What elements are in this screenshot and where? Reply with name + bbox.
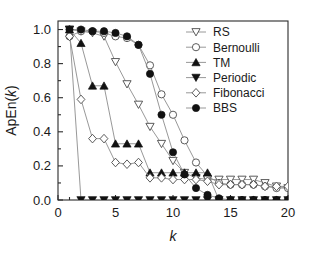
y-tick-label: 0.4 bbox=[33, 124, 51, 139]
legend-marker-bbs bbox=[192, 104, 199, 111]
y-tick-label: 0.2 bbox=[33, 158, 51, 173]
x-tick-label: 5 bbox=[112, 205, 119, 220]
data-point-bernoulli bbox=[158, 91, 165, 98]
y-tick-label: 0.6 bbox=[33, 90, 51, 105]
x-tick-label: 15 bbox=[223, 205, 237, 220]
y-axis-title: ApEn(k) bbox=[3, 85, 19, 136]
y-tick-label: 0.8 bbox=[33, 56, 51, 71]
y-axis-title-text: ApEn(k) bbox=[3, 85, 19, 136]
data-point-bbs bbox=[204, 191, 211, 198]
data-point-bbs bbox=[146, 70, 153, 77]
data-point-bernoulli bbox=[169, 111, 176, 118]
legend-label-bernoulli: Bernoulli bbox=[213, 41, 260, 55]
approximate-entropy-line-chart: 051015200.00.20.40.60.81.0 RSBernoulliTM… bbox=[0, 0, 314, 258]
data-point-bbs bbox=[181, 171, 188, 178]
y-tick-label: 0.0 bbox=[33, 193, 51, 208]
data-point-bbs bbox=[89, 28, 96, 35]
data-point-bbs bbox=[169, 149, 176, 156]
data-point-bernoulli bbox=[181, 137, 188, 144]
data-point-bbs bbox=[135, 41, 142, 48]
legend-label-tm: TM bbox=[213, 56, 230, 70]
legend-label-bbs: BBS bbox=[213, 101, 237, 115]
data-point-bbs bbox=[66, 26, 73, 33]
x-axis-title: k bbox=[170, 228, 178, 244]
x-tick-label: 20 bbox=[281, 205, 295, 220]
x-tick-label: 10 bbox=[166, 205, 180, 220]
x-tick-label: 0 bbox=[54, 205, 61, 220]
data-point-bbs bbox=[100, 28, 107, 35]
data-point-bbs bbox=[77, 26, 84, 33]
data-point-bbs bbox=[192, 184, 199, 191]
chart-figure: 051015200.00.20.40.60.81.0 RSBernoulliTM… bbox=[0, 0, 314, 258]
legend-label-periodic: Periodic bbox=[213, 71, 256, 85]
legend-label-fibonacci: Fibonacci bbox=[213, 86, 264, 100]
legend-marker-bernoulli bbox=[192, 44, 199, 51]
data-point-bernoulli bbox=[192, 159, 199, 166]
data-point-bbs bbox=[123, 33, 130, 40]
data-point-bbs bbox=[158, 111, 165, 118]
legend-label-rs: RS bbox=[213, 25, 230, 39]
y-tick-label: 1.0 bbox=[33, 22, 51, 37]
data-point-bbs bbox=[112, 29, 119, 36]
